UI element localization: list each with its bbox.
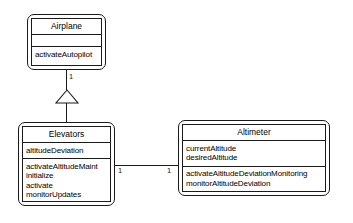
class-operation: initialize (26, 171, 107, 181)
class-name-altimeter: Altimeter (183, 125, 325, 141)
class-box-altimeter[interactable]: Altimeter currentAltitude desiredAltitud… (178, 120, 330, 196)
class-operations-elevators: activateAltitudeMaint initialize activat… (23, 159, 110, 203)
class-attributes-elevators: altitudeDeviation (23, 143, 110, 159)
class-name-elevators: Elevators (23, 127, 110, 143)
class-operation: monitorAltitudeDeviation (186, 179, 322, 189)
uml-class-diagram-canvas: Airplane activateAutopilot Elevators alt… (0, 0, 353, 223)
class-operation: activateAltitudeMaint (26, 162, 107, 172)
class-box-elevators[interactable]: Elevators altitudeDeviation activateAlti… (18, 122, 115, 206)
class-operation: monitorUpdates (26, 190, 107, 200)
generalization-stem-upper (66, 70, 67, 90)
class-box-airplane[interactable]: Airplane activateAutopilot (27, 14, 106, 70)
generalization-stem-lower (66, 103, 67, 122)
class-attributes-altimeter: currentAltitude desiredAltitude (183, 141, 325, 167)
class-attribute: currentAltitude (186, 144, 322, 154)
class-operations-altimeter: activateAltitudeDeviationMonitoring moni… (183, 167, 325, 192)
class-box-altimeter-inner: Altimeter currentAltitude desiredAltitud… (182, 124, 326, 192)
multiplicity-label-elevators-end: 1 (118, 167, 122, 175)
class-attributes-airplane (32, 35, 101, 47)
class-name-airplane: Airplane (32, 19, 101, 35)
class-operation: activateAutopilot (35, 50, 98, 60)
class-attribute: altitudeDeviation (26, 146, 107, 156)
class-attribute: desiredAltitude (186, 153, 322, 163)
class-box-elevators-inner: Elevators altitudeDeviation activateAlti… (22, 126, 111, 202)
generalization-arrowhead-icon (55, 89, 79, 104)
multiplicity-label-airplane-end: 1 (69, 73, 73, 81)
class-operation: activate (26, 181, 107, 191)
class-box-airplane-inner: Airplane activateAutopilot (31, 18, 102, 66)
class-operations-airplane: activateAutopilot (32, 47, 101, 65)
multiplicity-label-altimeter-end: 1 (167, 167, 171, 175)
class-operation: activateAltitudeDeviationMonitoring (186, 169, 322, 179)
